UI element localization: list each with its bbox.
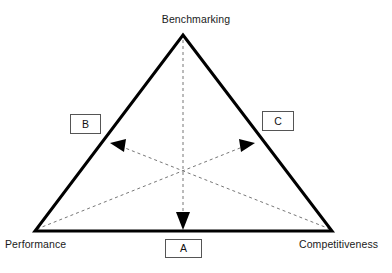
triangle-diagram-svg [0,0,392,273]
vertex-label-benchmarking: Benchmarking [0,13,392,26]
arrowhead-a-icon [176,212,190,230]
vertex-label-performance: Performance [5,238,66,251]
diagram-canvas: Benchmarking Performance Competitiveness… [0,0,392,273]
vertex-label-competitiveness: Competitiveness [299,238,378,251]
arrowhead-b-icon [110,139,126,152]
arrowhead-c-icon [239,139,255,152]
tag-box-c: C [262,111,294,131]
tag-box-a: A [165,239,202,258]
tag-box-b: B [70,114,101,134]
